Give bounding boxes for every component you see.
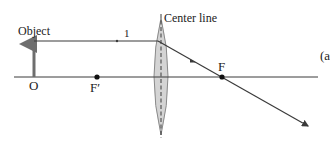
- focal-point-f-prime-dot: [94, 74, 99, 79]
- center-line-label: Center line: [164, 12, 217, 24]
- ray-number-label: 1: [124, 28, 130, 39]
- focal-point-f-label: F: [218, 60, 225, 73]
- ray-1-refracted: [158, 41, 308, 126]
- focal-point-f-prime-label: F′: [90, 81, 100, 94]
- object-base-label: O: [29, 79, 38, 92]
- lens-ray-diagram: Object 1 O F′ F Center line (a: [0, 0, 330, 160]
- object-label: Object: [18, 25, 50, 37]
- focal-point-f-dot: [219, 74, 224, 79]
- ray-1-direction-marker: [116, 40, 118, 42]
- part-label: (a: [320, 49, 330, 62]
